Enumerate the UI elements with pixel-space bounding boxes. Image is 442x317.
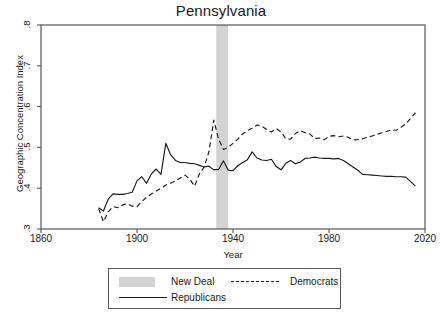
legend-label-new-deal: New Deal (171, 276, 214, 287)
legend-label-republicans: Republicans (171, 292, 226, 303)
legend-label-democrats: Democrats (290, 276, 338, 287)
legend-line-democrats (231, 281, 279, 282)
plot-frame (41, 25, 425, 229)
chart-figure: Pennsylvania Geographic Concentration In… (0, 0, 442, 317)
legend-line-republicans (119, 297, 167, 298)
legend-swatch-new-deal (119, 277, 155, 287)
axis-ticks (37, 25, 425, 233)
new-deal-shaded-region (216, 25, 228, 229)
chart-legend: New Deal Democrats Republicans (108, 268, 341, 309)
series-line-democrats (99, 113, 416, 222)
series-line-republicans (99, 143, 416, 211)
